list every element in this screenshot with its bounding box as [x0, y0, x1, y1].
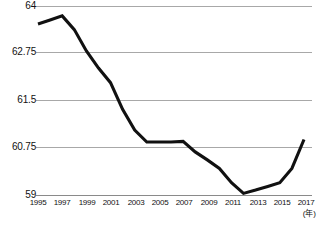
- ytick-label-61-5: 61.5: [17, 95, 36, 105]
- xtick-label-2017: 2017: [298, 199, 315, 207]
- xtick-label-1999: 1999: [79, 199, 96, 207]
- ytick-label-64: 64: [25, 1, 36, 11]
- xtick-label-2007: 2007: [176, 199, 193, 207]
- series-line-layer: [36, 6, 312, 196]
- xtick-label-1995: 1995: [30, 199, 47, 207]
- xtick-label-2001: 2001: [103, 199, 120, 207]
- xtick-label-2011: 2011: [225, 199, 241, 207]
- xtick-label-2015: 2015: [274, 199, 291, 207]
- xtick-label-2003: 2003: [128, 199, 145, 207]
- ytick-label-60-75: 60.75: [12, 142, 36, 152]
- xtick-label-2013: 2013: [250, 199, 267, 207]
- plot-area: [36, 6, 312, 196]
- ytick-label-62-75: 62.75: [12, 47, 36, 57]
- xtick-label-2005: 2005: [152, 199, 169, 207]
- x-axis-unit-label: (年): [303, 210, 316, 218]
- xtick-label-1997: 1997: [54, 199, 71, 207]
- line-chart: 64 62.75 61.5 60.75 59 1995 1997 1999 20…: [0, 0, 319, 226]
- xtick-label-2009: 2009: [201, 199, 218, 207]
- series-line: [38, 16, 304, 194]
